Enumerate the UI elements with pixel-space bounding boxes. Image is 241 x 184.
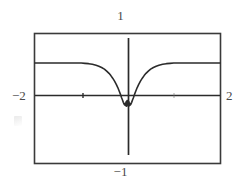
graph-figure: 1 −1 −2 2 bbox=[0, 0, 241, 184]
plot-canvas bbox=[0, 0, 241, 184]
function-curve bbox=[35, 63, 220, 106]
plot-frame-border bbox=[35, 34, 221, 164]
